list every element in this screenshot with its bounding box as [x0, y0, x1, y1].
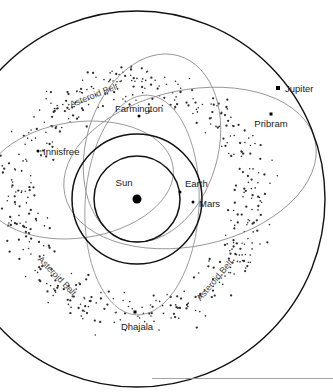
marker-pribram [270, 113, 273, 116]
label-asteroid-belt-left: Asteroid Belt [36, 254, 79, 298]
marker-mars [192, 201, 195, 204]
body-markers-group [37, 86, 281, 314]
marker-jupiter [276, 86, 280, 90]
label-farmington: Farmington [115, 103, 163, 114]
diagram-canvas: Sun Earth Mars Jupiter Innisfree Farming… [0, 0, 333, 392]
marker-innisfree [37, 150, 40, 153]
orbit-diagram: Sun Earth Mars Jupiter Innisfree Farming… [0, 0, 333, 392]
label-earth: Earth [185, 178, 208, 189]
label-sun: Sun [116, 177, 133, 188]
orbit-farmington [62, 38, 242, 259]
marker-sun [133, 195, 142, 204]
marker-earth [179, 191, 182, 194]
label-dhajala: Dhajala [121, 321, 154, 332]
label-jupiter: Jupiter [285, 83, 314, 94]
label-innisfree: Innisfree [43, 146, 79, 157]
label-pribram: Pribram [254, 118, 287, 129]
label-mars: Mars [199, 198, 220, 209]
marker-farmington [138, 115, 141, 118]
label-asteroid-belt-top: Asteroid Belt [68, 81, 120, 110]
marker-dhajala [134, 311, 137, 314]
